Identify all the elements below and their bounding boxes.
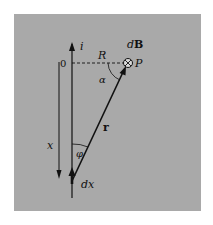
biot-savart-diagram: i 0 R dB P r α φ x dx (0, 0, 213, 225)
field-label: dB (127, 38, 143, 51)
distance-label: R (97, 49, 106, 62)
current-label: i (80, 40, 84, 53)
field-symbol: B (134, 38, 143, 51)
point-label: P (134, 57, 143, 70)
coordinate-label: x (47, 139, 54, 152)
origin-label: 0 (60, 58, 66, 69)
alpha-label: α (99, 74, 106, 85)
figure-panel (14, 14, 201, 211)
phi-label: φ (76, 148, 83, 159)
into-page-icon (124, 59, 133, 68)
field-prefix: d (127, 38, 134, 51)
element-label: dx (81, 178, 95, 191)
position-vector-label: r (103, 121, 109, 134)
